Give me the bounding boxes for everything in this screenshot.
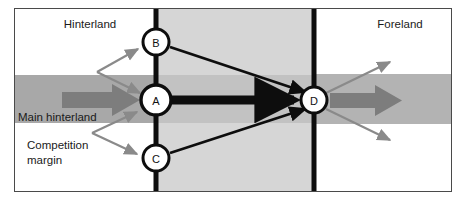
competition-margin-label-line1: Competition bbox=[27, 139, 88, 151]
hinterland-foreland-diagram: B A C D Hinterland Foreland Main hinterl… bbox=[0, 0, 466, 200]
main-hinterland-label: Main hinterland bbox=[18, 111, 97, 123]
hinterland-label: Hinterland bbox=[64, 18, 116, 30]
foreland-label: Foreland bbox=[377, 18, 422, 30]
node-a[interactable]: A bbox=[141, 85, 171, 115]
node-d-label: D bbox=[310, 95, 318, 107]
node-c[interactable]: C bbox=[143, 145, 169, 171]
figure-canvas: B A C D Hinterland Foreland Main hinterl… bbox=[0, 0, 466, 200]
node-c-label: C bbox=[152, 153, 160, 165]
node-a-label: A bbox=[152, 95, 160, 107]
node-b-label: B bbox=[152, 37, 159, 49]
node-d[interactable]: D bbox=[301, 87, 327, 113]
competition-margin-label-line2: margin bbox=[27, 154, 62, 166]
node-b[interactable]: B bbox=[143, 29, 169, 55]
